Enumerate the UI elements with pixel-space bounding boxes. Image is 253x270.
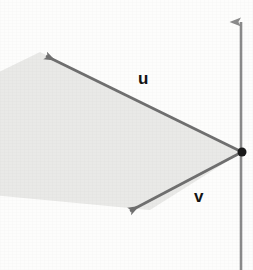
vector-u-label: u: [138, 70, 148, 87]
vector-v-label: v: [194, 188, 203, 205]
figure-canvas: [0, 0, 253, 270]
spanned-plane-region: [0, 52, 242, 210]
vector-plane-figure: u v: [0, 0, 253, 270]
origin-point-dot: [238, 148, 247, 157]
